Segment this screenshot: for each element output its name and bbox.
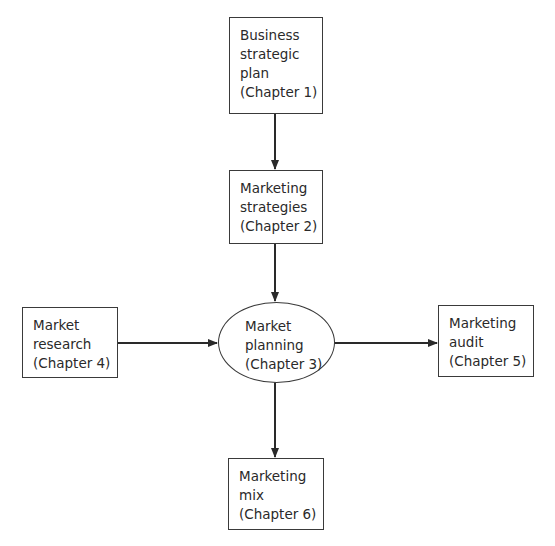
node-market-research: Market research (Chapter 4) (22, 307, 118, 378)
node-label-line: Market (245, 317, 334, 336)
node-label-line: Marketing (239, 467, 313, 486)
node-label-line: planning (245, 336, 334, 355)
node-label-line: (Chapter 2) (240, 217, 312, 236)
node-label-line: plan (240, 64, 312, 83)
node-marketing-mix: Marketing mix (Chapter 6) (228, 458, 324, 530)
node-label-line: (Chapter 5) (449, 352, 523, 371)
node-marketing-audit: Marketing audit (Chapter 5) (438, 305, 534, 377)
node-market-planning: Market planning (Chapter 3) (218, 302, 335, 383)
node-label-line: research (33, 335, 107, 354)
node-label-line: mix (239, 486, 313, 505)
node-label-line: strategies (240, 198, 312, 217)
node-label-line: Market (33, 316, 107, 335)
node-label-line: strategic (240, 45, 312, 64)
node-label-line: (Chapter 3) (245, 355, 334, 374)
node-label-line: Business (240, 26, 312, 45)
node-label-line: (Chapter 1) (240, 83, 312, 102)
node-label-line: Marketing (240, 179, 312, 198)
node-label-line: audit (449, 333, 523, 352)
node-label-line: Marketing (449, 314, 523, 333)
node-business-strategic-plan: Business strategic plan (Chapter 1) (229, 17, 323, 114)
node-label-line: (Chapter 4) (33, 354, 107, 373)
node-marketing-strategies: Marketing strategies (Chapter 2) (229, 170, 323, 244)
node-label-line: (Chapter 6) (239, 505, 313, 524)
